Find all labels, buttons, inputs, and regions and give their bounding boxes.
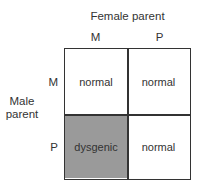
- cell-m-m: normal: [65, 49, 127, 114]
- cell-m-p: normal: [128, 49, 189, 114]
- column-header-p: P: [128, 31, 191, 43]
- cell-label: normal: [142, 76, 176, 88]
- cross-grid: normal normal dysgenic normal: [64, 48, 191, 180]
- cell-p-p: normal: [128, 115, 189, 178]
- grid-divider-horizontal: [65, 114, 190, 116]
- male-parent-label: Male parent: [2, 95, 42, 121]
- row-header-m: M: [44, 76, 58, 88]
- column-header-m: M: [64, 31, 127, 43]
- cell-p-m: dysgenic: [65, 115, 127, 178]
- row-header-p: P: [44, 141, 58, 153]
- female-parent-label: Female parent: [64, 10, 191, 22]
- cell-label: dysgenic: [74, 141, 117, 153]
- cell-label: normal: [142, 141, 176, 153]
- cell-label: normal: [79, 76, 113, 88]
